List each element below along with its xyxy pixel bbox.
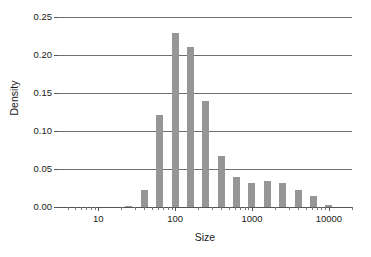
histogram-bar xyxy=(156,115,163,207)
x-axis-minor-tick xyxy=(75,207,76,210)
x-axis-tick-label: 100 xyxy=(167,213,183,224)
x-axis-minor-tick xyxy=(289,207,290,210)
x-axis-minor-tick xyxy=(240,207,241,210)
x-axis-tick xyxy=(175,207,176,211)
histogram-bar xyxy=(264,181,271,207)
x-axis-minor-tick xyxy=(312,207,313,210)
x-axis-minor-tick xyxy=(91,207,92,210)
x-axis-minor-tick xyxy=(298,207,299,210)
x-axis-minor-tick xyxy=(321,207,322,210)
histogram-bar xyxy=(187,47,194,207)
histogram-bar xyxy=(172,33,179,207)
x-axis-minor-tick xyxy=(121,207,122,210)
x-axis-minor-tick xyxy=(81,207,82,210)
y-axis-tick-label: 0.25 xyxy=(12,12,52,22)
x-axis-minor-tick xyxy=(245,207,246,210)
x-axis-minor-tick xyxy=(275,207,276,210)
x-axis-minor-tick xyxy=(158,207,159,210)
histogram-bar xyxy=(141,190,148,207)
x-axis-minor-tick xyxy=(235,207,236,210)
x-axis-minor-tick xyxy=(135,207,136,210)
x-axis-minor-tick xyxy=(221,207,222,210)
x-axis-minor-tick xyxy=(325,207,326,210)
x-axis-minor-tick xyxy=(172,207,173,210)
x-axis-minor-tick xyxy=(306,207,307,210)
x-axis-tick xyxy=(329,207,330,211)
histogram-bar xyxy=(125,206,132,207)
x-axis-minor-tick xyxy=(248,207,249,210)
x-axis-minor-tick xyxy=(163,207,164,210)
x-axis-minor-tick xyxy=(144,207,145,210)
histogram-bar xyxy=(295,190,302,207)
x-axis-line xyxy=(58,207,352,208)
bars-layer xyxy=(58,17,352,207)
y-axis-tick-label: 0.05 xyxy=(12,164,52,174)
histogram-bar xyxy=(202,101,209,207)
x-axis-tick xyxy=(98,207,99,211)
x-axis-title: Size xyxy=(58,231,352,243)
x-axis-minor-tick xyxy=(198,207,199,210)
x-axis-minor-tick xyxy=(168,207,169,210)
histogram-bar xyxy=(310,196,317,207)
histogram-bar xyxy=(218,156,225,207)
x-axis-minor-tick xyxy=(317,207,318,210)
x-axis-tick-label: 10 xyxy=(93,213,104,224)
x-axis-minor-tick xyxy=(152,207,153,210)
y-axis-title: Density xyxy=(8,58,20,138)
histogram-bar xyxy=(279,183,286,207)
x-axis-minor-tick xyxy=(86,207,87,210)
x-axis-minor-tick xyxy=(95,207,96,210)
x-axis-tick xyxy=(252,207,253,211)
histogram-figure: 0.000.050.100.150.200.25 10100100010000 … xyxy=(0,0,371,257)
x-axis-minor-tick xyxy=(68,207,69,210)
y-axis-tick xyxy=(54,207,58,208)
histogram-bar xyxy=(248,183,255,207)
x-axis-minor-tick xyxy=(352,207,353,210)
x-axis-tick-label: 1000 xyxy=(241,213,262,224)
x-axis-minor-tick xyxy=(229,207,230,210)
y-axis-tick-label: 0.00 xyxy=(12,202,52,212)
x-axis-minor-tick xyxy=(212,207,213,210)
x-axis-tick-label: 10000 xyxy=(316,213,342,224)
histogram-bar xyxy=(233,177,240,207)
